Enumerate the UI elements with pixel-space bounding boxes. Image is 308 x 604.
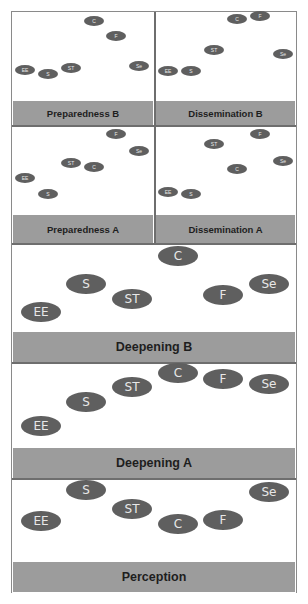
node-c: C — [227, 14, 247, 24]
node-c: C — [84, 16, 104, 26]
panel-title: Dissemination B — [188, 108, 262, 119]
panel-title: Perception — [122, 570, 187, 584]
panel-title-bar: Deepening A — [13, 448, 295, 478]
node-st: ST — [112, 377, 152, 397]
node-ee: EE — [21, 302, 61, 322]
node-se: Se — [273, 49, 293, 59]
panel-title-bar: Perception — [13, 562, 295, 592]
node-f: F — [203, 285, 243, 305]
node-f: F — [203, 369, 243, 389]
column-divider — [154, 12, 156, 243]
row-divider — [12, 243, 296, 245]
row-divider — [12, 362, 296, 364]
node-f: F — [250, 11, 270, 21]
panel-title-bar: Preparedness B — [13, 101, 153, 125]
node-s: S — [181, 189, 201, 199]
node-f: F — [106, 31, 126, 41]
node-s: S — [38, 69, 58, 79]
node-s: S — [181, 66, 201, 76]
panel-dissemination-a: Dissemination A — [155, 126, 296, 243]
node-c: C — [158, 363, 198, 383]
node-st: ST — [204, 139, 224, 149]
node-f: F — [250, 129, 270, 139]
panel-title-bar: Deepening B — [13, 332, 295, 362]
node-se: Se — [249, 274, 289, 294]
node-st: ST — [112, 499, 152, 519]
row-divider — [12, 478, 296, 480]
node-c: C — [84, 162, 104, 172]
node-se: Se — [249, 374, 289, 394]
panel-title: Dissemination A — [188, 224, 262, 235]
node-ee: EE — [15, 65, 35, 75]
node-st: ST — [112, 289, 152, 309]
node-s: S — [38, 189, 58, 199]
node-ee: EE — [158, 66, 178, 76]
node-st: ST — [204, 45, 224, 55]
node-c: C — [158, 514, 198, 534]
node-st: ST — [61, 158, 81, 168]
node-st: ST — [61, 63, 81, 73]
node-se: Se — [129, 146, 149, 156]
node-ee: EE — [21, 416, 61, 436]
node-s: S — [66, 480, 106, 500]
panel-preparedness-a: Preparedness A — [12, 126, 154, 243]
node-f: F — [106, 129, 126, 139]
node-f: F — [203, 510, 243, 530]
panel-title: Preparedness B — [47, 108, 119, 119]
panel-deepening-b: Deepening B — [12, 245, 296, 362]
node-c: C — [158, 246, 198, 266]
node-se: Se — [273, 156, 293, 166]
row-divider — [12, 125, 296, 127]
node-ee: EE — [15, 173, 35, 183]
node-s: S — [66, 274, 106, 294]
panel-title-bar: Dissemination A — [156, 215, 295, 243]
node-c: C — [227, 164, 247, 174]
node-s: S — [66, 392, 106, 412]
node-ee: EE — [21, 511, 61, 531]
panel-title: Deepening A — [116, 456, 192, 470]
node-ee: EE — [158, 187, 178, 197]
node-se: Se — [129, 61, 149, 71]
node-se: Se — [249, 482, 289, 502]
panel-title-bar: Preparedness A — [13, 215, 153, 243]
panel-title: Preparedness A — [47, 224, 119, 235]
panel-title: Deepening B — [116, 340, 192, 354]
panel-title-bar: Dissemination B — [156, 101, 295, 125]
